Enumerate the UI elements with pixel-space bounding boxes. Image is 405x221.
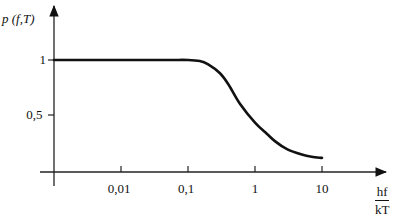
x-tick-label: 0,1 [178,182,194,195]
x-tick-label: 0,01 [108,182,131,195]
x-axis-label-numerator: hf [375,185,389,201]
x-ticks [121,166,322,172]
y-tick-label: 0,5 [26,108,42,121]
x-axis-label-denominator: kT [375,201,389,216]
y-axis-label: p (f,T) [2,12,35,25]
x-axis-label: hf kT [375,185,389,216]
data-curve [54,60,322,158]
chart-canvas [0,0,405,221]
x-tick-label: 1 [252,182,259,195]
y-ticks [48,60,54,115]
x-tick-label: 10 [315,182,328,195]
y-tick-label: 1 [39,53,46,66]
